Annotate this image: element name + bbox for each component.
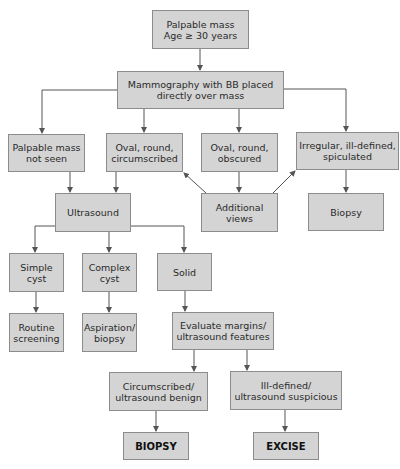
node-circumscribed-benign: Circumscribed/ ultrasound benign (109, 372, 208, 411)
node-solid: Solid (157, 253, 212, 291)
node-oval-obscured: Oval, round, obscured (201, 133, 278, 172)
node-additional-views: Additional views (201, 193, 278, 232)
node-biopsy-top: Biopsy (308, 193, 384, 231)
node-ultrasound: Ultrasound (55, 193, 131, 232)
node-palpable-mass-age: Palpable mass Age ≥ 30 years (152, 10, 249, 49)
node-routine-screening: Routine screening (9, 313, 64, 352)
node-palpable-mass-not-seen: Palpable mass not seen (8, 134, 85, 172)
node-simple-cyst: Simple cyst (9, 253, 64, 292)
node-excise-final: EXCISE (253, 432, 319, 460)
node-aspiration-biopsy: Aspiration/ biopsy (82, 313, 137, 352)
node-mammography: Mammography with BB placed directly over… (117, 71, 284, 109)
node-complex-cyst: Complex cyst (82, 253, 137, 292)
node-biopsy-final: BIOPSY (123, 432, 189, 460)
node-ill-defined-suspicious: Ill-defined/ ultrasound suspicious (230, 371, 342, 410)
node-evaluate-margins: Evaluate margins/ ultrasound features (172, 312, 274, 350)
node-oval-circumscribed: Oval, round, circumscribed (106, 133, 183, 172)
node-irregular-spiculated: Irregular, ill-defined, spiculated (296, 132, 399, 170)
